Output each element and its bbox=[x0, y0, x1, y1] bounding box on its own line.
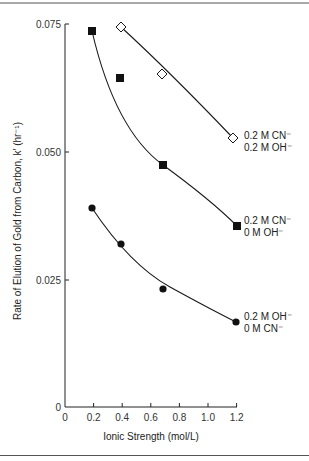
y-tick-label: 0.050 bbox=[36, 147, 61, 158]
series-label: 0 M OH⁻ bbox=[244, 227, 283, 238]
series-label: 0.2 M OH⁻ bbox=[244, 311, 292, 322]
x-axis: 0 0.2 0.4 0.6 0.8 1.0 1.2 bbox=[62, 403, 244, 423]
data-point-filled-circle bbox=[159, 285, 166, 292]
data-point-filled-square bbox=[233, 222, 241, 230]
x-tick-label: 0.6 bbox=[144, 412, 158, 423]
series-cn-oh: 0.2 M CN⁻ 0.2 M OH⁻ bbox=[116, 22, 292, 153]
series-label: 0.2 M CN⁻ bbox=[244, 215, 291, 226]
data-point-filled-square bbox=[116, 74, 124, 82]
x-tick-label: 0.8 bbox=[172, 412, 186, 423]
data-point-open-diamond bbox=[157, 69, 167, 79]
x-tick-label: 0.2 bbox=[87, 412, 101, 423]
data-point-filled-square bbox=[88, 27, 96, 35]
x-tick-label: 1.0 bbox=[201, 412, 215, 423]
y-axis: 0.075 0.050 0.025 0 bbox=[36, 19, 69, 413]
y-tick-label: 0.025 bbox=[36, 275, 61, 286]
x-tick-label: 1.2 bbox=[230, 412, 244, 423]
series-label: 0.2 M OH⁻ bbox=[244, 142, 292, 153]
data-point-filled-circle bbox=[232, 318, 239, 325]
chart: 0.075 0.050 0.025 0 0 0.2 0.4 0.6 0.8 1.… bbox=[0, 0, 309, 461]
y-tick-label: 0.075 bbox=[36, 19, 61, 30]
x-tick-label: 0 bbox=[62, 412, 68, 423]
data-point-filled-circle bbox=[88, 204, 95, 211]
y-tick-label: 0 bbox=[55, 402, 61, 413]
fit-curve bbox=[121, 27, 233, 138]
fit-curve bbox=[92, 31, 237, 226]
x-tick-label: 0.4 bbox=[115, 412, 129, 423]
series-label: 0 M CN⁻ bbox=[244, 323, 283, 334]
data-point-filled-circle bbox=[117, 240, 124, 247]
data-point-filled-square bbox=[159, 161, 167, 169]
y-axis-title: Rate of Elution of Gold from Carbon, k′ … bbox=[12, 122, 23, 320]
fit-curve bbox=[92, 208, 236, 322]
x-axis-title: Ionic Strength (mol/L) bbox=[103, 431, 199, 442]
series-label: 0.2 M CN⁻ bbox=[244, 130, 291, 141]
